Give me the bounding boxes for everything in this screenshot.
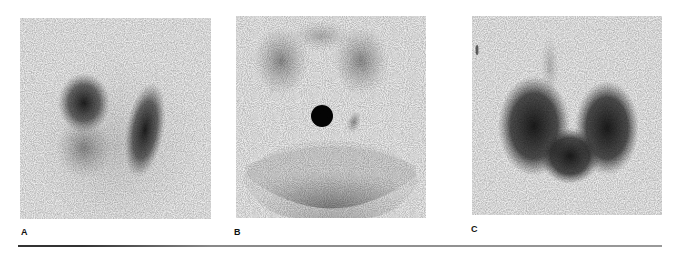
panel-c-image [472, 16, 662, 215]
scan-c-graphic [472, 16, 662, 215]
panel-b-label: B [234, 227, 241, 237]
scan-a-graphic [20, 18, 211, 219]
panel-c-label: C [471, 224, 478, 234]
caption-divider-rule [18, 245, 662, 247]
scan-b-graphic [236, 16, 426, 218]
panel-b-image [236, 16, 426, 218]
panel-a-image [20, 18, 211, 219]
panel-a-label: A [21, 227, 28, 237]
